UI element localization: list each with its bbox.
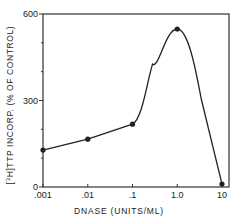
x-tick-label: .1 bbox=[129, 190, 137, 200]
x-tick-label: 1.0 bbox=[171, 190, 184, 200]
y-title-open: [ bbox=[5, 181, 15, 184]
y-tick-label: 300 bbox=[23, 96, 38, 106]
data-curve bbox=[43, 29, 222, 184]
y-axis-ticks: 0300600 bbox=[23, 9, 43, 192]
x-tick-label: .01 bbox=[81, 190, 94, 200]
chart-plot: 0300600 .001.01.11.010 bbox=[0, 0, 238, 223]
x-axis-title: DNASE (UNITS/ML) bbox=[0, 206, 238, 216]
y-axis-title-container: [3H]TTP INCORP. (% OF CONTROL) bbox=[2, 20, 18, 190]
y-title-isotope: 3 bbox=[5, 177, 11, 181]
data-point bbox=[130, 122, 135, 127]
data-point bbox=[85, 137, 90, 142]
data-point bbox=[40, 147, 45, 152]
x-tick-label: .001 bbox=[34, 190, 52, 200]
data-point bbox=[175, 26, 180, 31]
y-title-rest: H]TTP INCORP. (% OF CONTROL) bbox=[5, 26, 15, 178]
data-points bbox=[40, 26, 224, 186]
y-axis-title: [3H]TTP INCORP. (% OF CONTROL) bbox=[5, 26, 16, 184]
y-tick-label: 600 bbox=[23, 9, 38, 19]
x-axis-ticks: .001.01.11.010 bbox=[34, 184, 227, 200]
x-tick-label: 10 bbox=[217, 190, 227, 200]
data-point bbox=[219, 182, 224, 187]
